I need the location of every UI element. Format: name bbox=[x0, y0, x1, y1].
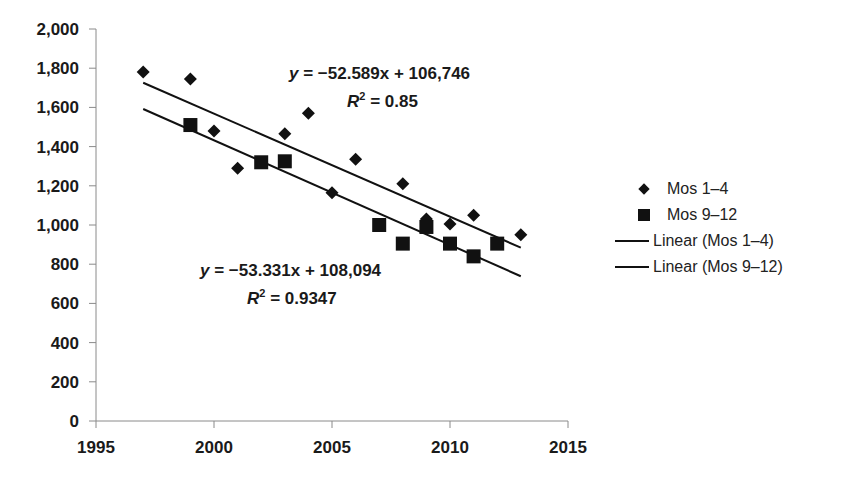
square-point bbox=[278, 154, 292, 168]
y-tick-label: 1,000 bbox=[36, 216, 79, 235]
r2-mos-1-4: R2 = 0.85 bbox=[347, 90, 418, 111]
x-tick-label: 2000 bbox=[195, 438, 233, 457]
legend-item-linear-mos-9-12: Linear (Mos 9–12) bbox=[617, 254, 783, 280]
square-point bbox=[372, 218, 386, 232]
square-point bbox=[490, 237, 504, 251]
x-tick-label: 1995 bbox=[77, 438, 115, 457]
diamond-point bbox=[349, 153, 362, 166]
r2-mos-9-12: R2 = 0.9347 bbox=[247, 287, 337, 308]
y-tick-label: 200 bbox=[51, 373, 79, 392]
legend-item-mos-9-12: Mos 9–12 bbox=[617, 202, 783, 228]
x-tick-label: 2015 bbox=[549, 438, 587, 457]
equation-mos-9-12: y = −53.331x + 108,094 bbox=[199, 261, 382, 280]
diamond-point bbox=[208, 124, 221, 137]
y-tick-label: 1,200 bbox=[36, 177, 79, 196]
trendline bbox=[143, 83, 521, 248]
trend-annotation-lower: y = −53.331x + 108,094 R2 = 0.9347 bbox=[199, 261, 382, 308]
x-tick-label: 2005 bbox=[313, 438, 351, 457]
square-point bbox=[183, 118, 197, 132]
axes: 02004006008001,0001,2001,4001,6001,8002,… bbox=[36, 20, 586, 457]
trendlines bbox=[143, 83, 521, 276]
legend-item-linear-mos-1-4: Linear (Mos 1–4) bbox=[617, 228, 783, 254]
square-point bbox=[443, 237, 457, 251]
diamond-point bbox=[514, 228, 527, 241]
diamond-point bbox=[302, 107, 315, 120]
y-tick-label: 1,400 bbox=[36, 138, 79, 157]
y-tick-label: 2,000 bbox=[36, 20, 79, 39]
diamond-point bbox=[231, 162, 244, 175]
legend-label: Mos 1–4 bbox=[667, 180, 728, 198]
legend-label: Linear (Mos 9–12) bbox=[653, 258, 783, 276]
diamond-point bbox=[278, 127, 291, 140]
line-marker-icon bbox=[615, 266, 649, 268]
square-point bbox=[254, 155, 268, 169]
square-point bbox=[467, 249, 481, 263]
diamond-marker-icon bbox=[638, 183, 649, 194]
line-marker-icon bbox=[615, 240, 649, 242]
x-tick-label: 2010 bbox=[431, 438, 469, 457]
diamond-point bbox=[326, 186, 339, 199]
square-marker-icon bbox=[638, 209, 650, 221]
y-tick-label: 1,600 bbox=[36, 98, 79, 117]
legend-label: Linear (Mos 1–4) bbox=[653, 232, 774, 250]
diamond-point bbox=[137, 66, 150, 79]
legend: Mos 1–4 Mos 9–12 Linear (Mos 1–4) Linear… bbox=[617, 176, 783, 280]
diamond-point bbox=[396, 177, 409, 190]
diamond-point bbox=[184, 72, 197, 85]
square-point bbox=[396, 237, 410, 251]
y-tick-label: 0 bbox=[70, 412, 79, 431]
diamond-point bbox=[467, 209, 480, 222]
square-point bbox=[419, 220, 433, 234]
y-tick-label: 400 bbox=[51, 334, 79, 353]
y-tick-label: 600 bbox=[51, 294, 79, 313]
legend-item-mos-1-4: Mos 1–4 bbox=[617, 176, 783, 202]
y-tick-label: 800 bbox=[51, 255, 79, 274]
legend-label: Mos 9–12 bbox=[667, 206, 737, 224]
trend-annotation-upper: y = −52.589x + 106,746 R2 = 0.85 bbox=[288, 64, 470, 111]
y-tick-label: 1,800 bbox=[36, 59, 79, 78]
equation-mos-1-4: y = −52.589x + 106,746 bbox=[288, 64, 470, 83]
